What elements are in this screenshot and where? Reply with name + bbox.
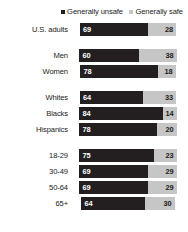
bar-segment-safe: 14 bbox=[163, 107, 177, 120]
legend-label-generally-safe: Generally safe bbox=[135, 8, 183, 16]
bar-stack: 7818 bbox=[80, 65, 175, 78]
chart-row: 65+6430 bbox=[0, 196, 188, 211]
row-label: 65+ bbox=[0, 196, 68, 211]
legend-item-generally-unsafe: Generally unsafe bbox=[61, 8, 123, 16]
chart-row: 18-297523 bbox=[0, 148, 188, 163]
bar-stack: 6433 bbox=[80, 91, 176, 104]
bar-value-unsafe: 64 bbox=[83, 94, 91, 102]
chart-row: U.S. adults6928 bbox=[0, 22, 188, 37]
chart-row: Hispanics7820 bbox=[0, 122, 188, 137]
bar-segment-safe: 29 bbox=[148, 181, 177, 194]
bar-value-safe: 14 bbox=[166, 110, 174, 118]
bar-stack: 6929 bbox=[79, 181, 176, 194]
bar-track: 6929 bbox=[71, 165, 185, 178]
bar-value-unsafe: 84 bbox=[82, 110, 90, 118]
row-label: Men bbox=[0, 48, 68, 63]
row-label: Women bbox=[0, 64, 68, 79]
bar-value-unsafe: 78 bbox=[83, 68, 91, 76]
bar-value-unsafe: 69 bbox=[82, 184, 90, 192]
row-label: Hispanics bbox=[0, 122, 68, 137]
bar-segment-unsafe: 69 bbox=[80, 23, 148, 36]
row-label: Whites bbox=[0, 90, 68, 105]
bar-track: 6433 bbox=[71, 91, 185, 104]
row-label: 50-64 bbox=[0, 180, 68, 195]
bar-segment-unsafe: 78 bbox=[80, 65, 157, 78]
bar-stack: 7820 bbox=[79, 123, 176, 136]
bar-segment-unsafe: 69 bbox=[79, 181, 147, 194]
bar-value-safe: 23 bbox=[166, 152, 174, 160]
square-swatch-icon bbox=[61, 10, 65, 14]
bar-value-safe: 20 bbox=[166, 126, 174, 134]
bar-track: 6430 bbox=[71, 197, 185, 210]
bar-segment-unsafe: 84 bbox=[79, 107, 162, 120]
bar-segment-safe: 38 bbox=[139, 49, 177, 62]
legend-label-generally-unsafe: Generally unsafe bbox=[67, 8, 123, 16]
bar-value-safe: 29 bbox=[166, 168, 174, 176]
bar-track: 6929 bbox=[71, 181, 185, 194]
bar-segment-safe: 18 bbox=[158, 65, 176, 78]
bar-stack: 6038 bbox=[79, 49, 176, 62]
chart-row: Blacks8414 bbox=[0, 106, 188, 121]
bar-value-unsafe: 75 bbox=[82, 152, 90, 160]
bar-track: 8414 bbox=[71, 107, 185, 120]
bar-segment-safe: 30 bbox=[145, 197, 175, 210]
bar-value-safe: 30 bbox=[164, 200, 172, 208]
chart-rows: U.S. adults6928Men6038Women7818Whites643… bbox=[0, 22, 188, 212]
bar-stack: 7523 bbox=[79, 149, 176, 162]
chart-row: 30-496929 bbox=[0, 164, 188, 179]
bar-track: 7820 bbox=[71, 123, 185, 136]
bar-segment-unsafe: 78 bbox=[79, 123, 156, 136]
bar-track: 6928 bbox=[71, 23, 185, 36]
bar-segment-safe: 23 bbox=[154, 149, 177, 162]
bar-segment-safe: 29 bbox=[148, 165, 177, 178]
bar-value-safe: 28 bbox=[165, 26, 173, 34]
bar-value-unsafe: 60 bbox=[82, 52, 90, 60]
bar-track: 6038 bbox=[71, 49, 185, 62]
bar-stack: 6928 bbox=[80, 23, 176, 36]
stacked-bar-chart: Generally unsafe Generally safe U.S. adu… bbox=[0, 0, 188, 232]
bar-segment-safe: 20 bbox=[157, 123, 177, 136]
bar-value-safe: 33 bbox=[165, 94, 173, 102]
bar-value-safe: 18 bbox=[165, 68, 173, 76]
bar-value-unsafe: 69 bbox=[83, 26, 91, 34]
square-swatch-icon bbox=[129, 10, 133, 14]
legend-item-generally-safe: Generally safe bbox=[129, 8, 183, 16]
bar-segment-unsafe: 64 bbox=[80, 91, 143, 104]
bar-value-unsafe: 78 bbox=[82, 126, 90, 134]
bar-track: 7523 bbox=[71, 149, 185, 162]
bar-segment-unsafe: 60 bbox=[79, 49, 138, 62]
bar-value-safe: 29 bbox=[166, 184, 174, 192]
chart-legend: Generally unsafe Generally safe bbox=[0, 6, 188, 18]
bar-segment-unsafe: 64 bbox=[81, 197, 144, 210]
bar-track: 7818 bbox=[71, 65, 185, 78]
bar-stack: 8414 bbox=[79, 107, 176, 120]
row-label: U.S. adults bbox=[0, 22, 68, 37]
bar-value-safe: 38 bbox=[166, 52, 174, 60]
chart-row: Men6038 bbox=[0, 48, 188, 63]
chart-row: Women7818 bbox=[0, 64, 188, 79]
bar-stack: 6929 bbox=[79, 165, 176, 178]
bar-segment-safe: 28 bbox=[148, 23, 176, 36]
row-label: 18-29 bbox=[0, 148, 68, 163]
row-label: Blacks bbox=[0, 106, 68, 121]
chart-row: 50-646929 bbox=[0, 180, 188, 195]
bar-value-unsafe: 64 bbox=[84, 200, 92, 208]
bar-segment-unsafe: 75 bbox=[79, 149, 153, 162]
row-label: 30-49 bbox=[0, 164, 68, 179]
bar-value-unsafe: 69 bbox=[82, 168, 90, 176]
bar-stack: 6430 bbox=[81, 197, 174, 210]
chart-row: Whites6433 bbox=[0, 90, 188, 105]
bar-segment-unsafe: 69 bbox=[79, 165, 147, 178]
bar-segment-safe: 33 bbox=[143, 91, 176, 104]
